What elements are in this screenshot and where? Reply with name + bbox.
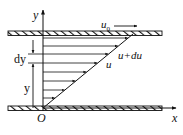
dy-label: dy [14, 53, 26, 65]
y-axis-label: y [33, 9, 38, 21]
velocity-u-du-label: u+du [118, 50, 142, 61]
x-axis-label: x [172, 112, 177, 124]
origin-label: O [37, 112, 46, 124]
velocity-profile-line [43, 34, 133, 108]
velocity-arrows [43, 38, 128, 98]
y-height-label: y [24, 82, 30, 94]
top-plate [8, 31, 162, 36]
velocity-u-label: u [106, 59, 112, 70]
subscript-zero: 0 [107, 25, 111, 33]
dy-marker [28, 40, 43, 108]
couette-flow-diagram [0, 0, 183, 135]
top-plate-velocity-label: u0 [101, 19, 110, 33]
